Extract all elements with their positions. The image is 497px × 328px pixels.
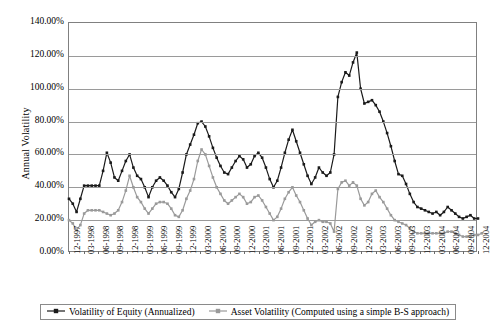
data-point-marker xyxy=(287,191,290,194)
x-tick-label: 03-2002 xyxy=(320,226,330,254)
y-tick-label: 60.00% xyxy=(8,148,64,158)
x-tick-label: 12-2001 xyxy=(305,226,315,254)
data-point-marker xyxy=(386,132,389,135)
data-point-marker xyxy=(374,104,377,107)
data-point-marker xyxy=(174,196,177,199)
data-point-marker xyxy=(193,178,196,181)
data-point-marker xyxy=(143,207,146,210)
data-point-marker xyxy=(178,216,181,219)
data-point-marker xyxy=(125,189,128,192)
data-point-marker xyxy=(132,166,135,169)
data-point-marker xyxy=(371,193,374,196)
y-tick-label: 80.00% xyxy=(8,116,64,126)
data-point-marker xyxy=(136,174,139,177)
data-point-marker xyxy=(477,217,480,220)
y-tick-label: 140.00% xyxy=(8,17,64,27)
data-point-marker xyxy=(454,212,457,215)
data-point-marker xyxy=(295,140,298,143)
data-point-marker xyxy=(291,128,294,131)
data-point-marker xyxy=(280,166,283,169)
data-point-marker xyxy=(378,110,381,113)
data-point-marker xyxy=(321,171,324,174)
data-point-marker xyxy=(219,165,222,168)
x-tick-label: 09-1998 xyxy=(115,226,125,254)
y-axis-tick-labels: 0.00%20.00%40.00%60.00%80.00%100.00%120.… xyxy=(0,0,64,328)
data-point-marker xyxy=(352,61,355,64)
data-point-marker xyxy=(79,197,82,200)
data-point-marker xyxy=(280,207,283,210)
data-point-marker xyxy=(83,212,86,215)
data-point-marker xyxy=(276,216,279,219)
data-point-marker xyxy=(212,176,215,179)
data-point-marker xyxy=(71,222,74,225)
data-point-marker xyxy=(215,156,218,159)
data-point-marker xyxy=(427,211,430,214)
legend-entry: Asset Volatility (Computed using a simpl… xyxy=(209,307,449,317)
data-point-marker xyxy=(117,179,120,182)
x-tick-label: 06-2000 xyxy=(218,226,228,254)
data-point-marker xyxy=(189,189,192,192)
series-layer xyxy=(69,23,478,253)
data-point-marker xyxy=(98,209,101,212)
y-tick-label: 0.00% xyxy=(8,247,64,257)
data-point-marker xyxy=(390,145,393,148)
y-tick-label: 40.00% xyxy=(8,181,64,191)
data-point-marker xyxy=(374,189,377,192)
x-tick-label: 12-1999 xyxy=(188,226,198,254)
data-point-marker xyxy=(265,206,268,209)
data-point-marker xyxy=(284,197,287,200)
data-point-marker xyxy=(253,196,256,199)
x-tick-label: 06-1998 xyxy=(101,226,111,254)
data-point-marker xyxy=(310,183,313,186)
data-point-marker xyxy=(231,166,234,169)
y-tick-label: 120.00% xyxy=(8,50,64,60)
data-point-marker xyxy=(109,161,112,164)
data-point-marker xyxy=(363,102,366,105)
data-point-marker xyxy=(409,193,412,196)
data-point-marker xyxy=(227,173,230,176)
data-point-marker xyxy=(431,212,434,215)
data-point-marker xyxy=(227,202,230,205)
data-point-marker xyxy=(166,202,169,205)
data-point-marker xyxy=(249,163,252,166)
data-point-marker xyxy=(140,201,143,204)
data-point-marker xyxy=(318,166,321,169)
x-tick-label: 03-2004 xyxy=(437,226,447,254)
data-point-marker xyxy=(337,96,340,99)
legend-marker-icon xyxy=(47,307,65,317)
data-point-marker xyxy=(348,74,351,77)
data-point-marker xyxy=(268,212,271,215)
data-point-marker xyxy=(185,197,188,200)
data-point-marker xyxy=(412,201,415,204)
x-tick-label: 06-2003 xyxy=(393,226,403,254)
data-point-marker xyxy=(204,125,207,128)
data-point-marker xyxy=(265,166,268,169)
data-point-marker xyxy=(367,101,370,104)
x-tick-label: 03-1999 xyxy=(145,226,155,254)
x-tick-label: 06-2001 xyxy=(276,226,286,254)
data-point-marker xyxy=(371,99,374,102)
data-point-marker xyxy=(170,207,173,210)
data-point-marker xyxy=(68,197,71,200)
data-point-marker xyxy=(87,209,90,212)
series-line xyxy=(69,150,482,237)
data-point-marker xyxy=(329,222,332,225)
data-point-marker xyxy=(378,196,381,199)
data-point-marker xyxy=(359,197,362,200)
gridline xyxy=(69,220,476,221)
plot-area xyxy=(68,22,477,252)
data-point-marker xyxy=(469,214,472,217)
x-tick-label: 03-2001 xyxy=(261,226,271,254)
gridline xyxy=(69,89,476,90)
data-point-marker xyxy=(71,202,74,205)
data-point-marker xyxy=(155,179,158,182)
data-point-marker xyxy=(113,212,116,215)
data-point-marker xyxy=(340,181,343,184)
data-point-marker xyxy=(162,201,165,204)
data-point-marker xyxy=(234,160,237,163)
data-point-marker xyxy=(128,174,131,177)
data-point-marker xyxy=(393,160,396,163)
x-axis-tick-labels: 12-199703-199806-199809-199812-199803-19… xyxy=(68,254,477,300)
data-point-marker xyxy=(420,207,423,210)
chart-legend: Volatility of Equity (Annualized)Asset V… xyxy=(40,304,456,320)
